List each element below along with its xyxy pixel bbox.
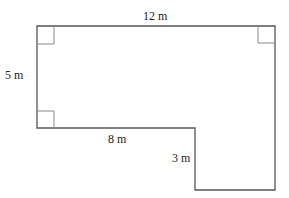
shape-outline [37,26,275,190]
label-inner-bottom-length: 8 m [108,132,126,147]
label-top-length: 12 m [143,9,167,24]
right-angle-marker-top-right [258,26,275,43]
right-angle-marker-bottom-left [37,111,54,128]
l-shape-figure [0,0,289,198]
label-left-height: 5 m [5,68,23,83]
label-inner-vertical-height: 3 m [172,151,190,166]
right-angle-marker-top-left [37,26,54,44]
